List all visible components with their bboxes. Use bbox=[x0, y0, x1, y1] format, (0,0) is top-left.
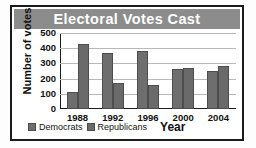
chart-card: Electoral Votes Cast Number of votes 010… bbox=[10, 5, 244, 141]
chart-legend: DemocratsRepublicans Year bbox=[28, 121, 185, 133]
bar-democrats-1988 bbox=[67, 92, 78, 109]
bar-republicans-1996 bbox=[148, 85, 159, 109]
legend-swatch-icon bbox=[28, 123, 36, 131]
chart-title: Electoral Votes Cast bbox=[53, 12, 200, 27]
bar-democrats-2004 bbox=[207, 71, 218, 109]
legend-swatch-icon bbox=[87, 123, 95, 131]
y-axis-tick-label: 100 bbox=[40, 89, 56, 99]
legend-item-democrats[interactable]: Democrats bbox=[28, 123, 83, 132]
bar-democrats-1992 bbox=[102, 53, 113, 109]
x-axis-tick-label: 2004 bbox=[208, 113, 229, 123]
y-axis-tick-label: 200 bbox=[40, 74, 56, 84]
chart-title-bar: Electoral Votes Cast bbox=[14, 9, 240, 29]
legend-items: DemocratsRepublicans bbox=[28, 123, 151, 132]
bar-democrats-1996 bbox=[137, 51, 148, 109]
bar-republicans-2000 bbox=[183, 68, 194, 109]
legend-item-republicans[interactable]: Republicans bbox=[87, 123, 148, 132]
bar-republicans-1988 bbox=[78, 44, 89, 109]
legend-label: Democrats bbox=[39, 123, 83, 132]
bar-republicans-1992 bbox=[113, 83, 124, 109]
gridline bbox=[60, 33, 236, 34]
bar-democrats-2000 bbox=[172, 69, 183, 109]
y-axis-tick-label: 500 bbox=[40, 28, 56, 38]
plot-area: 0100200300400500 19881992199620002004 bbox=[60, 33, 236, 109]
bar-republicans-2004 bbox=[218, 66, 229, 109]
legend-label: Republicans bbox=[98, 123, 148, 132]
y-axis-tick-label: 400 bbox=[40, 43, 56, 53]
y-axis-tick-label: 300 bbox=[40, 59, 56, 69]
y-axis-label: Number of votes bbox=[22, 19, 33, 95]
x-axis-label: Year bbox=[160, 121, 185, 133]
y-axis-tick-label: 0 bbox=[51, 104, 56, 114]
